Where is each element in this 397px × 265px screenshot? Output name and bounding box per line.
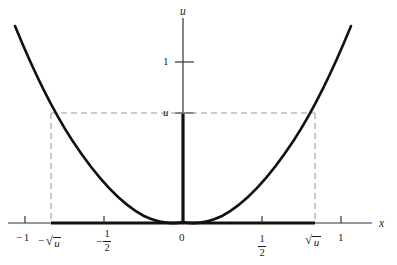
- minus-sign-glyph: −: [96, 236, 102, 247]
- fraction-denominator: 2: [258, 247, 265, 259]
- fraction-numerator: 1: [258, 234, 265, 246]
- radicand-u: u: [53, 237, 62, 250]
- minus-sign-glyph: −: [38, 235, 44, 246]
- one-glyph: 1: [24, 232, 30, 243]
- x-tick-label-half: 1 2: [258, 229, 266, 258]
- x-tick-label-minus-half: − 1 2: [96, 229, 111, 253]
- origin-label: 0: [179, 232, 185, 243]
- plot-canvas: [0, 0, 397, 265]
- radical-sign-icon: √: [305, 234, 312, 246]
- fraction-one-half: 1 2: [103, 229, 111, 253]
- x-tick-label-one: 1: [338, 232, 344, 243]
- x-tick-label-minus-one: − 1: [16, 232, 29, 243]
- y-tick-label-u: u: [163, 107, 169, 118]
- radicand-u: u: [312, 236, 321, 249]
- y-tick-label-one: 1: [163, 56, 169, 67]
- radical-sign-icon: √: [46, 235, 53, 247]
- x-tick-label-minus-sqrt-u: − √ u: [38, 231, 61, 249]
- minus-sign-glyph: −: [16, 232, 22, 243]
- fraction-one-half: 1 2: [258, 234, 266, 258]
- x-tick-label-sqrt-u: √ u: [305, 231, 321, 248]
- fraction-numerator: 1: [104, 229, 111, 241]
- fraction-denominator: 2: [104, 242, 111, 254]
- y-axis-label: u: [180, 6, 186, 18]
- parabola-figure: u x 1 u − 1 − √ u − 1 2 0: [0, 0, 397, 265]
- x-axis-label: x: [379, 218, 384, 230]
